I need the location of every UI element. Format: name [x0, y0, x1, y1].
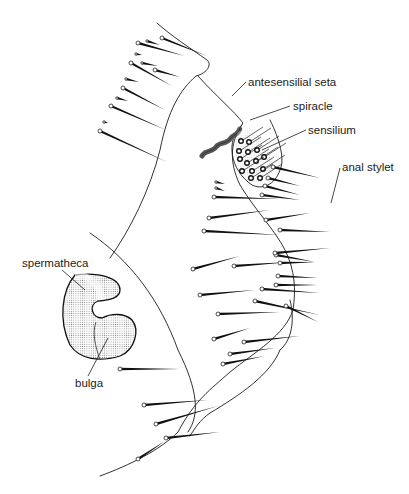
seta-socket [141, 62, 143, 64]
label-sensilium: sensilium [308, 124, 356, 136]
spermatheca [63, 274, 136, 360]
seta [278, 275, 318, 278]
seta-socket [253, 299, 257, 303]
seta [276, 254, 315, 262]
seta [137, 441, 165, 460]
sensilium-pore [250, 169, 255, 174]
seta [204, 230, 280, 235]
seta [275, 248, 330, 254]
seta-socket [284, 304, 288, 308]
sensilium-pore [239, 139, 244, 144]
lateral-outline [100, 76, 294, 476]
seta-socket [215, 187, 217, 189]
seta-socket [136, 41, 140, 45]
sensilium-pore [245, 161, 250, 166]
seta-socket [207, 216, 211, 220]
seta-socket [142, 403, 146, 407]
trichobothrium [266, 143, 286, 156]
seta [230, 348, 275, 355]
seta [273, 166, 320, 178]
seta-socket [212, 195, 216, 199]
seta-socket [260, 287, 264, 291]
seta-socket [129, 61, 133, 65]
seta-socket [125, 78, 127, 80]
sensilium-pore [237, 149, 242, 154]
sensilium-pore [238, 157, 243, 162]
seta [130, 62, 172, 86]
seta-socket [135, 53, 137, 55]
seta-socket [164, 436, 168, 440]
label-spermatheca: spermatheca [22, 257, 89, 269]
seta-socket [278, 228, 282, 232]
seta [111, 105, 166, 130]
seta-socket [198, 293, 202, 297]
seta-socket [271, 165, 275, 169]
seta-socket [242, 340, 246, 344]
seta [122, 87, 165, 110]
seta-socket [103, 121, 105, 123]
tergite-outline [110, 23, 209, 258]
seta-socket [274, 283, 278, 287]
seta [126, 78, 139, 82]
seta-socket [221, 362, 225, 366]
label-anal-stylet: anal stylet [342, 161, 395, 173]
seta-socket [273, 251, 277, 255]
seta-socket [153, 68, 157, 72]
seta [266, 213, 310, 221]
seta [200, 290, 255, 296]
body-outlines [90, 23, 294, 476]
seta-socket [136, 457, 140, 461]
seta-socket [264, 218, 268, 222]
seta [142, 62, 158, 66]
label-spiracle: spiracle [293, 100, 333, 112]
seta-socket [118, 367, 122, 371]
dorsal-edge-outline [190, 350, 280, 436]
seta-socket [216, 312, 220, 316]
seta [262, 194, 300, 200]
seta [214, 328, 250, 340]
seta [280, 229, 330, 232]
seta [265, 185, 300, 195]
seta-socket [98, 129, 102, 133]
seta-socket [121, 86, 125, 90]
seta-socket [232, 264, 236, 268]
seta [156, 406, 218, 425]
seta-socket [266, 176, 270, 180]
seta-socket [278, 261, 282, 265]
seta-socket [215, 181, 217, 183]
label-antesensilial-seta: antesensilial seta [248, 76, 337, 88]
terminalia-illustration: antesensilial seta spiracle sensilium an… [0, 0, 409, 494]
seta [120, 368, 180, 370]
seta-socket [202, 229, 206, 233]
seta-socket [160, 36, 164, 40]
sensilium-pore [249, 176, 254, 181]
seta [162, 37, 207, 56]
seta-socket [109, 104, 113, 108]
seta-socket [260, 193, 264, 197]
seta [218, 312, 280, 315]
seta [244, 336, 300, 343]
seta [147, 40, 160, 45]
seta [276, 284, 318, 286]
sensilium-pore [240, 169, 245, 174]
sensilium-pore [258, 176, 263, 181]
seta-socket [191, 267, 195, 271]
seta [223, 356, 265, 365]
label-bulga: bulga [75, 377, 104, 389]
seta [144, 400, 208, 406]
seta-socket [212, 337, 216, 341]
seta-socket [154, 422, 158, 426]
seta-socket [263, 184, 267, 188]
seta [262, 288, 320, 293]
seta-socket [228, 352, 232, 356]
seta [155, 69, 180, 77]
seta [99, 130, 167, 162]
seta-socket [276, 274, 280, 278]
seta-socket [116, 97, 118, 99]
seta [280, 262, 315, 264]
seta-socket [146, 40, 148, 42]
sensilium-pore [246, 150, 251, 155]
